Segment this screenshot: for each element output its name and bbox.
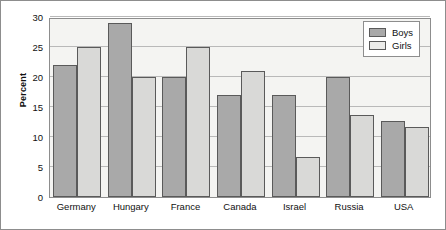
bar-girls-france — [186, 47, 210, 197]
bar-girls-usa — [405, 127, 429, 197]
legend-item-boys: Boys — [369, 26, 413, 39]
x-tick-label: Germany — [49, 202, 104, 212]
legend-label: Boys — [392, 28, 413, 38]
bar-boys-france — [162, 77, 186, 197]
x-tick-label: Russia — [322, 202, 377, 212]
x-tick-label: Hungary — [104, 202, 159, 212]
chart-legend: BoysGirls — [363, 21, 420, 57]
y-tick-label: 25 — [1, 43, 43, 53]
bar-boys-germany — [53, 65, 77, 197]
x-tick-label: France — [158, 202, 213, 212]
legend-swatch-icon — [369, 28, 386, 37]
bar-girls-hungary — [132, 77, 156, 197]
y-tick-label: 5 — [1, 163, 43, 173]
legend-swatch-icon — [369, 41, 386, 50]
bar-girls-israel — [296, 157, 320, 197]
gridline — [50, 16, 430, 17]
y-tick-label: 30 — [1, 13, 43, 23]
y-tick-label: 20 — [1, 73, 43, 83]
bar-boys-hungary — [108, 23, 132, 197]
legend-item-girls: Girls — [369, 39, 413, 52]
bar-girls-russia — [350, 115, 374, 197]
bar-girls-canada — [241, 71, 265, 197]
bar-boys-russia — [326, 77, 350, 197]
bar-group — [162, 19, 210, 197]
bar-group — [53, 19, 101, 197]
bar-girls-germany — [77, 47, 101, 197]
y-tick-label: 15 — [1, 103, 43, 113]
y-tick-label: 0 — [1, 193, 43, 203]
bar-group — [108, 19, 156, 197]
bar-boys-usa — [381, 121, 405, 197]
x-tick-label: Israel — [267, 202, 322, 212]
bar-boys-israel — [272, 95, 296, 197]
bar-boys-canada — [217, 95, 241, 197]
legend-label: Girls — [392, 41, 412, 51]
x-tick-label: Canada — [213, 202, 268, 212]
chart-figure: Percent 051015202530 GermanyHungaryFranc… — [0, 0, 446, 230]
y-tick-label: 10 — [1, 133, 43, 143]
x-tick-label: USA — [376, 202, 431, 212]
bar-group — [272, 19, 320, 197]
bar-group — [217, 19, 265, 197]
